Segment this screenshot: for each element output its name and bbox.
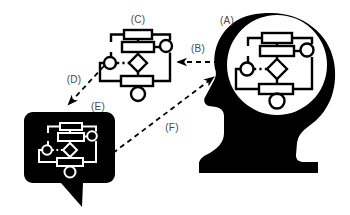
label-e: (E)	[91, 101, 105, 112]
label-f: (F)	[165, 122, 178, 133]
label-d: (D)	[67, 74, 81, 85]
flow-diagram-figure: (A) (B) (C) (D) (E) (F)	[0, 0, 350, 215]
label-c: (C)	[131, 14, 145, 25]
label-b: (B)	[191, 43, 205, 54]
label-a: (A)	[220, 15, 234, 26]
jaw-notch	[196, 113, 203, 150]
